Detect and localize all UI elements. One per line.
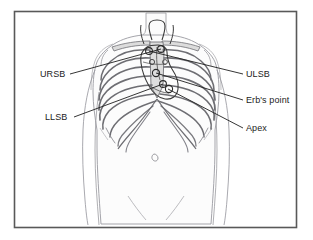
label-ulsb: ULSB (246, 69, 270, 79)
label-erbs-point: Erb's point (246, 95, 289, 105)
label-llsb: LLSB (45, 112, 67, 122)
neck-shape (142, 13, 170, 36)
anatomical-figure: URSB LLSB ULSB Erb's point Apex (0, 0, 313, 240)
label-ursb: URSB (40, 69, 65, 79)
label-apex: Apex (246, 123, 267, 133)
